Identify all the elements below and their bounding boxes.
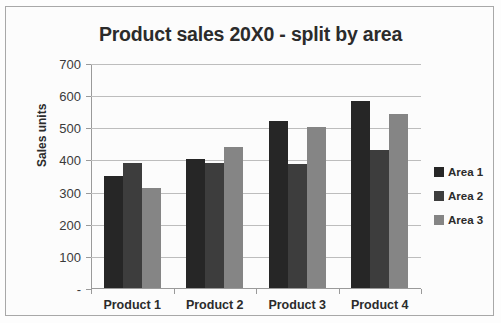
y-tick-label: 600: [59, 89, 81, 104]
x-tick-label: Product 1: [103, 298, 161, 312]
bar[interactable]: [186, 159, 205, 288]
y-tick-label: -: [77, 282, 81, 297]
bar-group: [174, 63, 257, 288]
y-tick-label: 700: [59, 57, 81, 72]
bar[interactable]: [224, 147, 243, 288]
chart-legend: Area 1Area 2Area 3: [434, 160, 483, 232]
bar[interactable]: [142, 188, 161, 288]
bar-group: [256, 63, 339, 288]
plot-area: -100200300400500600700 Product 1Product …: [91, 64, 421, 289]
y-tick-label: 300: [59, 185, 81, 200]
x-tick-mark: [174, 289, 175, 294]
x-tick-label: Product 2: [186, 298, 244, 312]
legend-item[interactable]: Area 2: [434, 184, 483, 208]
bar[interactable]: [370, 150, 389, 288]
legend-swatch-icon: [434, 215, 444, 225]
bar-group: [339, 63, 422, 288]
chart-title: Product sales 20X0 - split by area: [6, 23, 495, 46]
y-axis-title: Sales units: [35, 104, 49, 167]
bar-group: [91, 63, 174, 288]
legend-swatch-icon: [434, 167, 444, 177]
legend-item[interactable]: Area 3: [434, 208, 483, 232]
bar[interactable]: [123, 163, 142, 288]
bar[interactable]: [104, 176, 123, 289]
legend-label: Area 1: [448, 166, 483, 178]
y-tick-label: 500: [59, 121, 81, 136]
bar[interactable]: [269, 121, 288, 288]
bar[interactable]: [288, 164, 307, 288]
chart-screenshot: Product sales 20X0 - split by area Sales…: [0, 0, 501, 323]
legend-label: Area 3: [448, 214, 483, 226]
y-tick-label: 200: [59, 217, 81, 232]
bar[interactable]: [205, 163, 224, 288]
bar[interactable]: [389, 114, 408, 288]
x-tick-label: Product 3: [268, 298, 326, 312]
x-tick-mark: [256, 289, 257, 294]
legend-item[interactable]: Area 1: [434, 160, 483, 184]
y-tick-label: 400: [59, 153, 81, 168]
legend-label: Area 2: [448, 190, 483, 202]
x-tick-label: Product 4: [351, 298, 409, 312]
x-tick-mark: [421, 289, 422, 294]
legend-swatch-icon: [434, 191, 444, 201]
bar[interactable]: [307, 127, 326, 288]
bar[interactable]: [351, 101, 370, 288]
x-tick-mark: [339, 289, 340, 294]
x-tick-mark: [91, 289, 92, 294]
chart-container: Product sales 20X0 - split by area Sales…: [5, 6, 494, 316]
y-tick-label: 100: [59, 249, 81, 264]
